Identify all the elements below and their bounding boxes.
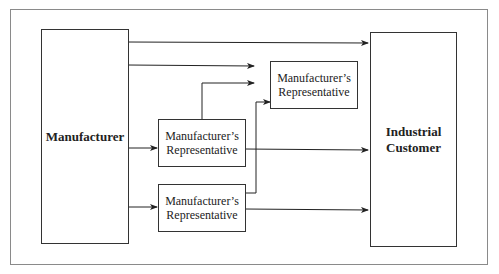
rep-bottom-label-line1: Manufacturer’s: [165, 194, 239, 208]
arrow-manufacturer-to-customer: [128, 42, 368, 43]
industrial-customer-node: Industrial Customer: [370, 32, 457, 247]
arrow-rep-mid-to-rep-top: [202, 83, 254, 119]
rep-top-label-line1: Manufacturer’s: [277, 71, 351, 85]
customer-label-line2: Customer: [386, 140, 441, 156]
arrow-manufacturer-to-rep-top: [128, 65, 254, 66]
rep-bottom-node: Manufacturer’s Representative: [158, 184, 246, 232]
arrow-rep-bottom-to-rep-top: [245, 102, 270, 193]
rep-mid-label-line2: Representative: [166, 143, 237, 157]
arrow-rep-bottom-to-customer: [245, 209, 368, 210]
rep-mid-label-line1: Manufacturer’s: [165, 129, 239, 143]
rep-mid-node: Manufacturer’s Representative: [158, 119, 246, 167]
arrow-rep-mid-to-customer: [245, 149, 368, 150]
manufacturer-node: Manufacturer: [41, 29, 129, 244]
rep-bottom-label-line2: Representative: [166, 208, 237, 222]
rep-top-label-line2: Representative: [278, 85, 349, 99]
manufacturer-label: Manufacturer: [46, 129, 124, 145]
rep-top-node: Manufacturer’s Representative: [270, 61, 358, 109]
customer-label-line1: Industrial: [386, 124, 442, 140]
